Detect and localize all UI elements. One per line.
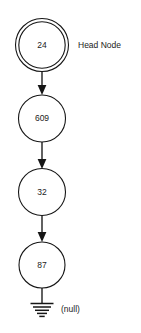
node-head[interactable]: 24 — [16, 19, 69, 72]
node-4[interactable]: 87 — [19, 242, 65, 288]
linked-list-canvas: 24 Head Node 609 32 — [0, 0, 141, 333]
link-arrow-1 — [38, 72, 47, 96]
ground-icon — [31, 288, 54, 316]
link-arrow-3 — [38, 216, 47, 243]
head-node-label: Head Node — [78, 40, 121, 50]
arrow-head-1 — [38, 85, 47, 95]
node-2-value: 609 — [35, 113, 49, 123]
arrow-head-2 — [38, 159, 47, 169]
node-head-value: 24 — [37, 40, 47, 50]
null-label: (null) — [61, 304, 80, 314]
node-3[interactable]: 32 — [19, 169, 66, 216]
node-4-value: 87 — [37, 260, 47, 270]
arrow-head-3 — [38, 232, 47, 242]
linked-list-diagram: 24 Head Node 609 32 — [0, 0, 141, 333]
node-3-value: 32 — [37, 187, 47, 197]
node-2[interactable]: 609 — [19, 95, 66, 142]
link-arrow-2 — [38, 142, 47, 169]
